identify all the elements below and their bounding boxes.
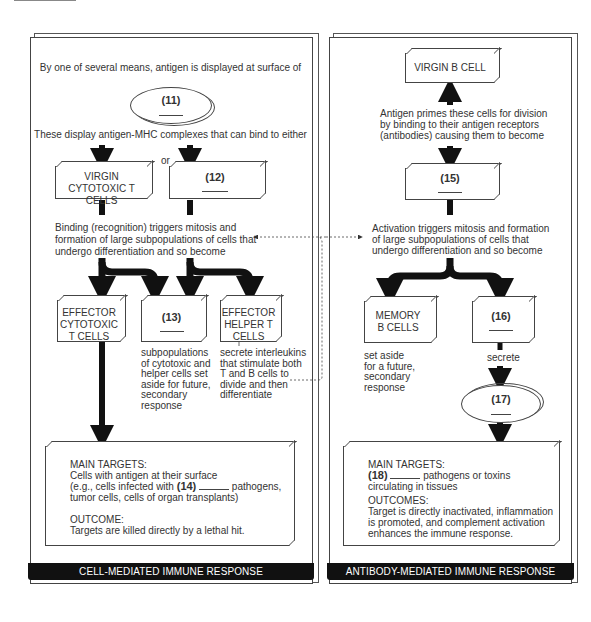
effector-helper-box: EFFECTOR HELPER T CELLS: [220, 300, 277, 342]
t-cells-label: T CELLS: [58, 331, 120, 343]
effector-cytotoxic-box: EFFECTOR CYTOTOXIC T CELLS: [57, 300, 121, 342]
label-12: (12): [170, 171, 260, 183]
main-targets-heading: MAIN TARGETS:: [70, 459, 289, 470]
targets-line-2-post: pathogens,: [232, 481, 282, 492]
effector-helper-label-1: EFFECTOR: [221, 307, 276, 319]
label-18: (18): [368, 469, 388, 481]
subpop-line: subpopulations: [141, 348, 210, 359]
activation-text: Activation triggers mitosis and formatio…: [372, 223, 549, 256]
antigen-line: by binding to their antigen receptors: [380, 119, 547, 130]
cytotoxic-label: CYTOTOXIC: [58, 319, 120, 331]
interleukin-line: secrete interleukins: [220, 348, 306, 359]
targets-line-2: circulating in tissues: [368, 481, 554, 492]
targets-line-1: (18) pathogens or toxins: [368, 470, 554, 481]
subpop-line: secondary: [141, 390, 210, 401]
targets-line-2: (e.g., cells infected with (14) pathogen…: [70, 481, 289, 492]
memory-b-cells-box: MEMORY B CELLS: [364, 301, 432, 343]
interleukin-line: T and B cells to: [220, 369, 306, 380]
b-cells-label: B CELLS: [365, 322, 431, 334]
blank-13[interactable]: [160, 330, 184, 332]
antibody-mediated-banner: ANTIBODY-MEDIATED IMMUNE RESPONSE: [327, 563, 574, 580]
blank-14[interactable]: [199, 488, 229, 490]
antigen-primes-text: Antigen primes these cells for division …: [380, 108, 547, 141]
memory-label: MEMORY: [365, 310, 431, 322]
effector-label: EFFECTOR: [58, 307, 120, 319]
cell-mediated-banner: CELL-MEDIATED IMMUNE RESPONSE: [28, 563, 314, 580]
label-15: (15): [406, 172, 494, 184]
cell-mediated-targets-box: MAIN TARGETS: Cells with antigen at thei…: [45, 446, 290, 546]
cytotoxic-t-cells-label: CYTOTOXIC T CELLS: [56, 183, 147, 207]
subpop-line: response: [141, 401, 210, 412]
box-13: (13): [141, 300, 202, 342]
memory-set-aside-text: set aside for a future, secondary respon…: [364, 351, 415, 393]
virgin-b-cell-label: VIRGIN B CELL: [414, 62, 486, 73]
label-14: (14): [177, 480, 197, 492]
blank-18[interactable]: [390, 477, 420, 479]
blank-15[interactable]: [438, 191, 462, 193]
memory-text-line: set aside: [364, 351, 415, 362]
interleukins-text: secrete interleukins that stimulate both…: [220, 348, 306, 401]
effector-helper-label-3: CELLS: [221, 331, 276, 343]
interleukin-line: differentiate: [220, 390, 306, 401]
activation-line: of large subpopulations of cells that: [372, 234, 549, 245]
outcome-line: Target is directly inactivated, inflamma…: [368, 506, 554, 517]
secrete-label: secrete: [486, 352, 521, 364]
virgin-cytotoxic-box: VIRGIN CYTOTOXIC T CELLS: [55, 166, 148, 199]
intro-text: By one of several means, antigen is disp…: [30, 62, 311, 74]
binding-text: Binding (recognition) triggers mitosis a…: [55, 222, 256, 258]
outcome-line: enhances the immune response.: [368, 528, 554, 539]
virgin-b-cell-box: VIRGIN B CELL: [405, 53, 495, 83]
targets-line-3: tumor cells, cells of organ transplants): [70, 492, 289, 503]
effector-helper-label-2: HELPER T: [221, 319, 276, 331]
outcome-line: is promoted, and complement activation: [368, 517, 554, 528]
blank-17[interactable]: [491, 413, 511, 415]
antigen-line: Antigen primes these cells for division: [380, 108, 547, 119]
oval-17: (17): [461, 385, 541, 423]
blank-16[interactable]: [489, 329, 513, 331]
activation-line: Activation triggers mitosis and formatio…: [372, 223, 549, 234]
virgin-label: VIRGIN: [56, 171, 147, 183]
outcome-heading: OUTCOME:: [70, 514, 289, 525]
binding-line-2: formation of large subpopulations of cel…: [55, 234, 256, 246]
memory-text-line: secondary: [364, 372, 415, 383]
subpopulations-text: subpopulations of cytotoxic and helper c…: [141, 348, 210, 411]
display-text: These display antigen-MHC complexes that…: [30, 129, 311, 141]
activation-line: undergo differentiation and so become: [372, 245, 549, 256]
label-11: (11): [131, 94, 211, 106]
label-17: (17): [462, 393, 540, 405]
outcome-text: Targets are killed directly by a lethal …: [70, 525, 289, 536]
blank-11[interactable]: [159, 114, 183, 116]
box-12: (12): [169, 166, 261, 199]
outcomes-heading: OUTCOMES:: [368, 495, 554, 506]
subpop-line: helper cells set: [141, 369, 210, 380]
antigen-line: (antibodies) causing them to become: [380, 130, 547, 141]
targets-line-2-pre: (e.g., cells infected with: [70, 481, 174, 492]
memory-text-line: response: [364, 383, 415, 394]
main-targets-heading: MAIN TARGETS:: [368, 459, 554, 470]
binding-line-3: undergo differentiation and so become: [55, 246, 256, 258]
binding-line-1: Binding (recognition) triggers mitosis a…: [55, 222, 256, 234]
box-15: (15): [405, 168, 495, 200]
label-16: (16): [473, 310, 529, 322]
label-13: (13): [142, 311, 201, 323]
antibody-targets-box: MAIN TARGETS: (18) pathogens or toxins c…: [343, 446, 555, 546]
box-16: (16): [472, 301, 530, 343]
blank-12[interactable]: [202, 190, 228, 192]
oval-11: (11): [130, 87, 212, 124]
targets-line-1-post: pathogens or toxins: [423, 470, 510, 481]
